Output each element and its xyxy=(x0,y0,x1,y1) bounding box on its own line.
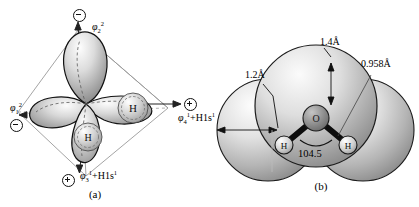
hydrogen-atom-label-left: H xyxy=(281,141,288,151)
oxygen-atom-label: O xyxy=(312,113,319,124)
orbital-label-phi2: φ22 xyxy=(92,20,104,34)
orbital-lobe-upper xyxy=(64,32,108,104)
orbital-label-phi3: φ31+H1s1 xyxy=(80,169,117,183)
hydrogen-atom-label-right: H xyxy=(345,141,352,151)
orbital-label-phi1: φ12 xyxy=(10,101,22,115)
dimension-bond-length: 0.958Å xyxy=(361,58,391,69)
hydrogen-label-lower: H xyxy=(84,132,91,143)
panel-a-caption: (a) xyxy=(0,188,190,200)
panel-a: H H φ22 φ12 φ41+H1s1 φ31+H1s1 (a) xyxy=(0,0,206,207)
panel-b-caption: (b) xyxy=(206,180,419,192)
dimension-hydrogen-radius: 1.2Å xyxy=(245,69,265,80)
dimension-oxygen-radius: 1.4Å xyxy=(320,36,340,47)
charge-sign-minus-top xyxy=(73,9,86,22)
charge-sign-plus-bottom xyxy=(62,174,75,187)
bond-angle-value: 104.5 xyxy=(298,148,322,159)
hydrogen-label-right: H xyxy=(129,102,137,114)
charge-sign-plus-right xyxy=(184,98,197,111)
panel-b-graphic: O H H xyxy=(206,0,412,207)
charge-sign-minus-left xyxy=(10,119,23,132)
panel-b: O H H xyxy=(206,0,412,207)
